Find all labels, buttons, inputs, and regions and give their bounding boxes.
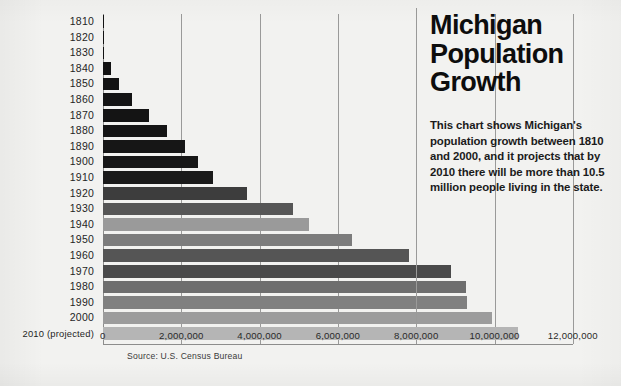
x-tick-label-2000000: 2,000,000 [159, 330, 203, 341]
y-tick-label-1890: 1890 [70, 139, 94, 155]
bar-1920 [103, 187, 247, 200]
source-note: Source: U.S. Census Bureau [127, 351, 243, 361]
info-panel: Michigan Population Growth This chart sh… [418, 0, 621, 386]
bar-1910 [103, 171, 213, 184]
y-tick-label-1850: 1850 [70, 76, 94, 92]
y-tick-label-1860: 1860 [70, 92, 94, 108]
y-tick-label-2000: 2000 [70, 310, 94, 326]
bar-1840 [103, 62, 111, 75]
chart-panel: 1810182018301840185018601870188018901900… [0, 0, 416, 386]
panel-divider [416, 8, 417, 326]
x-tick-label-0: 0 [100, 330, 106, 341]
bar-1820 [103, 31, 104, 44]
y-tick-label-1920: 1920 [70, 186, 94, 202]
bar-1960 [103, 249, 409, 262]
y-tick-label-1870: 1870 [70, 108, 94, 124]
y-tick-label-1960: 1960 [70, 248, 94, 264]
x-tick-label-4000000: 4,000,000 [237, 330, 281, 341]
y-tick-label-1830: 1830 [70, 45, 94, 61]
bar-1870 [103, 109, 149, 122]
y-tick-label-1880: 1880 [70, 123, 94, 139]
bar-1940 [103, 218, 309, 231]
bar-1930 [103, 203, 293, 216]
x-tick-label-6000000: 6,000,000 [316, 330, 360, 341]
bar-1890 [103, 140, 185, 153]
y-tick-label-1910: 1910 [70, 170, 94, 186]
bar-1810 [103, 15, 104, 28]
bar-1950 [103, 234, 352, 247]
page-title: Michigan Population Growth [430, 11, 620, 97]
bar-1900 [103, 156, 198, 169]
y-axis-labels: 1810182018301840185018601870188018901900… [0, 14, 100, 326]
bar-1880 [103, 125, 167, 138]
bar-1860 [103, 93, 132, 106]
y-tick-label-1820: 1820 [70, 30, 94, 46]
y-tick-label-1990: 1990 [70, 295, 94, 311]
y-tick-label-1940: 1940 [70, 217, 94, 233]
y-tick-label-1950: 1950 [70, 232, 94, 248]
y-tick-label-1900: 1900 [70, 154, 94, 170]
y-tick-label-1810: 1810 [70, 14, 94, 30]
y-tick-label-1930: 1930 [70, 201, 94, 217]
chart-page: 1810182018301840185018601870188018901900… [0, 0, 621, 386]
y-tick-label-1970: 1970 [70, 264, 94, 280]
bar-1980 [103, 281, 466, 294]
bar-1970 [103, 265, 451, 278]
y-tick-label-1980: 1980 [70, 279, 94, 295]
y-tick-label-1840: 1840 [70, 61, 94, 77]
bar-1830 [103, 47, 104, 60]
bar-1990 [103, 296, 467, 309]
bar-1850 [103, 78, 119, 91]
chart-description: This chart shows Michigan's population g… [430, 118, 612, 196]
